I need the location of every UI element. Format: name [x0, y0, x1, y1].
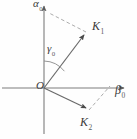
alpha-axis-label: α0 — [33, 0, 42, 12]
vector-diagram-figure: α0 β0 K1 K2 γ0 O — [0, 0, 137, 139]
dashed-k2-projection — [89, 86, 110, 110]
gamma-angle-arc — [44, 61, 64, 71]
gamma-angle-label: γ0 — [47, 43, 55, 57]
beta-axis-label: β0 — [115, 84, 125, 99]
dashed-k1-projection — [49, 13, 86, 32]
vector-k1-label: K1 — [92, 20, 104, 35]
vector-k2-label: K2 — [80, 116, 92, 131]
diagram-canvas — [0, 0, 137, 139]
origin-label: O — [36, 80, 44, 91]
vector-k2-line — [44, 88, 86, 108]
